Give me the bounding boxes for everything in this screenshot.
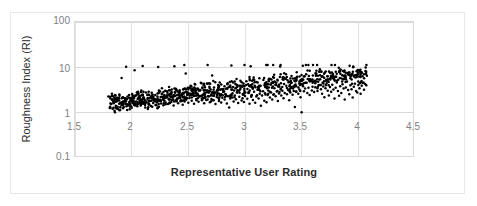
scatter-points-layer: [75, 22, 413, 156]
y-tick-label-0.1: 0.1: [30, 152, 70, 162]
x-tick-label-2.5: 2.5: [172, 121, 202, 133]
x-tick-label-3: 3: [229, 121, 259, 133]
x-axis-title: Representative User Rating: [74, 166, 414, 178]
y-tick-label-1: 1: [30, 109, 70, 119]
x-tick-label-4: 4: [342, 121, 372, 133]
y-tick-label-10: 10: [30, 64, 70, 74]
y-axis-tick-labels: 100 10 1 0.1: [28, 21, 70, 157]
chart-figure: Roughness Index (RI) 100 10 1 0.1 1.5 2 …: [0, 0, 477, 206]
x-tick-label-4.5: 4.5: [398, 121, 428, 133]
plot-area: [74, 21, 414, 157]
x-tick-label-1.5: 1.5: [59, 121, 89, 133]
y-tick-label-100: 100: [30, 16, 70, 26]
x-tick-label-3.5: 3.5: [285, 121, 315, 133]
x-axis-tick-labels: 1.5 2 2.5 3 3.5 4 4.5: [74, 121, 414, 135]
x-tick-label-2: 2: [115, 121, 145, 133]
